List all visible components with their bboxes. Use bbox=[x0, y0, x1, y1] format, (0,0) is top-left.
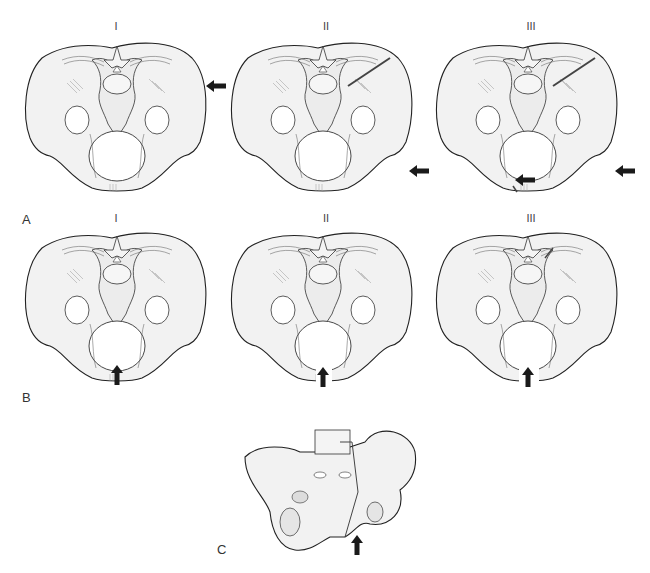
panel-a-label-iii: III bbox=[516, 20, 546, 32]
panel-b-label-ii: II bbox=[311, 212, 341, 224]
arrow-up-icon bbox=[317, 367, 331, 389]
arrow-left-icon bbox=[615, 165, 637, 179]
arrow-up-icon bbox=[111, 365, 125, 387]
pelvis-c-frontal bbox=[240, 412, 425, 562]
panel-c-letter: C bbox=[217, 542, 226, 557]
panel-a-label-i: I bbox=[101, 20, 131, 32]
pelvis-a-i bbox=[22, 38, 212, 198]
arrow-left-icon bbox=[409, 165, 431, 179]
pelvis-a-ii bbox=[228, 38, 418, 198]
pelvis-b-iii bbox=[433, 228, 623, 388]
arrow-up-icon bbox=[351, 535, 365, 557]
arrow-up-icon bbox=[522, 367, 536, 389]
panel-b-letter: B bbox=[22, 390, 31, 405]
pelvis-b-i bbox=[22, 228, 212, 388]
arrow-left-icon bbox=[515, 174, 537, 188]
panel-b-label-i: I bbox=[101, 212, 131, 224]
panel-a-label-ii: II bbox=[311, 20, 341, 32]
arrow-left-icon bbox=[206, 80, 228, 94]
panel-b-label-iii: III bbox=[516, 212, 546, 224]
panel-a-letter: A bbox=[22, 212, 31, 227]
pelvis-b-ii bbox=[228, 228, 418, 388]
